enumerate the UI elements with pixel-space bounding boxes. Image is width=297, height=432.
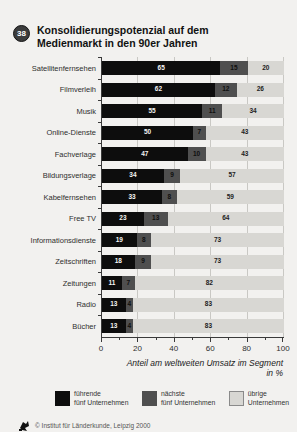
stacked-bar: 34957	[102, 169, 284, 183]
bar-segment-rest: 73	[151, 233, 284, 247]
bar-rows: Satellitenfernsehen651520Filmverleih6212…	[101, 57, 284, 338]
bar-segment-leading-five: 65	[102, 61, 220, 75]
x-axis-tick	[137, 338, 138, 342]
bar-value-label: 26	[257, 86, 264, 93]
bar-value-label: 7	[198, 129, 202, 136]
y-axis-tick	[98, 315, 102, 316]
bar-value-label: 83	[205, 323, 212, 330]
stacked-bar: 33859	[102, 190, 284, 204]
bar-segment-next-five: 11	[202, 104, 222, 118]
bar-segment-leading-five: 13	[102, 298, 126, 312]
stacked-bar: 231364	[102, 212, 284, 226]
bar-segment-next-five: 9	[164, 169, 180, 183]
y-axis-tick	[98, 272, 102, 273]
bar-value-label: 11	[109, 280, 116, 287]
y-axis-tick	[98, 122, 102, 123]
bar-value-label: 50	[144, 129, 151, 136]
legend-label: übrige Unternehmen	[248, 390, 289, 408]
x-axis-caption-line1: Anteil am weltweiten Umsatz im Segment	[0, 358, 283, 369]
x-axis-tick	[228, 338, 229, 340]
bar-value-label: 64	[222, 215, 229, 222]
bar-value-label: 15	[230, 65, 237, 72]
stacked-bar: 18973	[102, 255, 284, 269]
stacked-bar: 19873	[102, 233, 284, 247]
legend-swatch	[55, 391, 70, 406]
x-axis-tick	[174, 338, 175, 342]
bar-value-label: 73	[214, 237, 221, 244]
x-tick-label: 40	[169, 344, 178, 353]
table-row: Zeitschriften18973	[102, 251, 284, 273]
category-label: Satellitenfernsehen	[32, 64, 96, 73]
bar-segment-leading-five: 33	[102, 190, 162, 204]
bar-segment-rest: 43	[206, 126, 284, 140]
title-row: 38 Konsolidierungspotenzial auf dem Medi…	[0, 0, 297, 50]
table-row: Online-Dienste50743	[102, 122, 284, 144]
y-axis-tick	[98, 251, 102, 252]
table-row: Informationsdienste19873	[102, 229, 284, 251]
bar-segment-rest: 83	[133, 298, 284, 312]
stacked-bar: 50743	[102, 126, 284, 140]
bar-segment-rest: 20	[248, 61, 284, 75]
bar-value-label: 8	[168, 194, 172, 201]
bar-segment-leading-five: 13	[102, 319, 126, 333]
table-row: Fachverlage471043	[102, 143, 284, 165]
table-row: Zeitungen11782	[102, 272, 284, 294]
bar-segment-next-five: 9	[135, 255, 151, 269]
stacked-bar: 13483	[102, 298, 284, 312]
bar-value-label: 10	[193, 151, 200, 158]
y-axis-tick	[98, 229, 102, 230]
bar-value-label: 82	[206, 280, 213, 287]
category-label: Bildungsverlage	[43, 171, 96, 180]
bar-value-label: 55	[148, 108, 155, 115]
x-axis-tick	[210, 338, 211, 342]
bar-value-label: 65	[158, 65, 165, 72]
bar-value-label: 83	[205, 301, 212, 308]
category-label: Free TV	[69, 214, 96, 223]
x-axis-tick	[192, 338, 193, 340]
table-row: Kabelfernsehen33859	[102, 186, 284, 208]
bar-segment-next-five: 15	[220, 61, 247, 75]
bar-segment-rest: 73	[151, 255, 284, 269]
bar-value-label: 43	[241, 151, 248, 158]
bar-value-label: 7	[127, 280, 131, 287]
bar-segment-next-five: 10	[188, 147, 206, 161]
bar-value-label: 62	[155, 86, 162, 93]
stacked-bar: 11782	[102, 276, 284, 290]
page-title: Konsolidierungspotenzial auf dem Medienm…	[37, 24, 209, 50]
bar-segment-rest: 34	[222, 104, 284, 118]
x-axis: 020406080100	[101, 338, 283, 354]
legend-swatch	[229, 391, 244, 406]
legend-item: nächste fünf Unternehmen	[142, 390, 215, 408]
x-tick-label: 80	[242, 344, 251, 353]
atlas-figure-page: 38 Konsolidierungspotenzial auf dem Medi…	[0, 0, 297, 432]
x-axis-tick	[156, 338, 157, 340]
footer: © Institut für Länderkunde, Leipzig 2000	[18, 420, 297, 432]
bar-value-label: 57	[229, 172, 236, 179]
x-axis-caption-line2: in %	[0, 368, 283, 379]
bar-value-label: 18	[115, 258, 122, 265]
category-label: Filmverleih	[60, 85, 96, 94]
bar-value-label: 8	[142, 237, 146, 244]
table-row: Musik551134	[102, 100, 284, 122]
x-tick-label: 60	[206, 344, 215, 353]
bar-value-label: 43	[241, 129, 248, 136]
bar-segment-next-five: 7	[193, 126, 206, 140]
x-tick-label: 0	[99, 344, 103, 353]
bar-value-label: 47	[141, 151, 148, 158]
category-label: Musik	[76, 107, 96, 116]
x-axis-tick	[265, 338, 266, 340]
x-axis-tick	[101, 338, 102, 342]
table-row: Free TV231364	[102, 208, 284, 230]
bar-segment-next-five: 7	[122, 276, 135, 290]
bar-segment-rest: 57	[180, 169, 284, 183]
bar-segment-rest: 83	[133, 319, 284, 333]
figure-number-badge: 38	[13, 25, 30, 42]
institute-logo-icon	[18, 420, 30, 432]
bar-value-label: 11	[209, 108, 216, 115]
table-row: Bücher13483	[102, 315, 284, 337]
y-axis-tick	[98, 294, 102, 295]
page-title-line2: Medienmarkt in den 90er Jahren	[37, 37, 209, 50]
bar-segment-next-five: 12	[215, 83, 237, 97]
stacked-bar-chart: Satellitenfernsehen651520Filmverleih6212…	[0, 57, 297, 379]
x-axis-tick	[247, 338, 248, 342]
